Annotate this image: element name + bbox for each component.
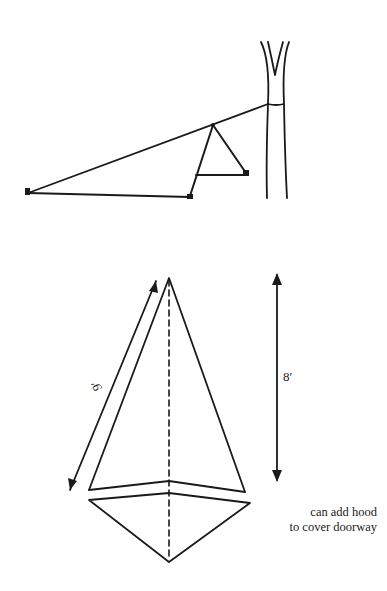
ground-line — [28, 193, 190, 197]
stake-right — [243, 170, 249, 176]
stake-center — [187, 194, 193, 199]
ridge-rope — [28, 104, 268, 193]
hood-note-line1: can add hood — [275, 505, 377, 520]
height-arrow — [272, 273, 282, 482]
tree-trunk — [261, 42, 289, 198]
a-frame-support — [190, 125, 246, 196]
side-length-arrow — [68, 281, 158, 490]
height-label: 8′ — [283, 369, 292, 385]
ground-stakes — [25, 123, 249, 199]
top-shelter-side-view — [25, 42, 289, 199]
stake-left — [25, 188, 30, 195]
shelter-diagram — [0, 0, 387, 591]
hood-note-line2: to cover doorway — [275, 520, 377, 535]
bottom-tarp-plan-view — [68, 273, 282, 562]
hood-note: can add hood to cover doorway — [275, 505, 377, 535]
